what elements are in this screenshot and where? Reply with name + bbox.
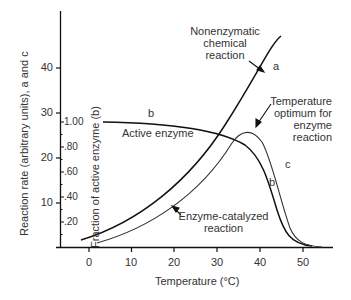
annotation-nonenzymatic-line: Nonenzymatic	[190, 25, 260, 37]
curve-b-label-bottom: b	[269, 176, 275, 188]
annotation-nonenzymatic-line: reaction	[190, 49, 260, 61]
y-axis-secondary-label: Fraction of active enzyme (b)	[89, 106, 101, 248]
y-tick-label: 20	[33, 151, 53, 163]
curve-c-label: c	[285, 158, 291, 170]
y-tick-label: 30	[33, 106, 53, 118]
curve-a-label: a	[273, 60, 279, 72]
annotation-temperature-optimum: Temperature optimum for enzyme reaction	[262, 95, 332, 143]
x-tick-label: 20	[164, 256, 184, 268]
annotation-nonenzymatic-line: chemical	[190, 37, 260, 49]
y-secondary-tick-label: 1.00	[64, 116, 83, 127]
y-axis-label: Reaction rate (arbitrary units), a and c	[18, 51, 30, 236]
annotation-optimum-line: optimum for	[262, 107, 332, 119]
y-secondary-tick-label: .80	[64, 141, 78, 152]
chart-plot	[0, 0, 351, 300]
x-tick-label: 40	[250, 256, 270, 268]
y-secondary-tick-label: .20	[64, 216, 78, 227]
annotation-nonenzymatic: Nonenzymatic chemical reaction	[190, 25, 260, 61]
x-tick-label: 10	[121, 256, 141, 268]
annotation-optimum-line: Temperature	[262, 95, 332, 107]
y-tick-label: 40	[33, 61, 53, 73]
y-secondary-tick-label: .60	[64, 166, 78, 177]
annotation-enzyme-catalyzed: Enzyme-catalyzed reaction	[176, 210, 271, 234]
annotation-optimum-line: reaction	[262, 131, 332, 143]
x-tick-label: 50	[293, 256, 313, 268]
annotation-catalyzed-line: reaction	[176, 222, 271, 234]
annotation-catalyzed-line: Enzyme-catalyzed	[176, 210, 271, 222]
x-axis-label: Temperature (°C)	[155, 275, 239, 287]
x-tick-label: 30	[207, 256, 227, 268]
y-tick-label: 10	[33, 196, 53, 208]
annotation-optimum-line: enzyme	[262, 119, 332, 131]
y-secondary-tick-label: .40	[64, 191, 78, 202]
curve-b-label-top: b	[148, 107, 154, 119]
x-tick-label: 0	[79, 256, 99, 268]
annotation-active-enzyme: Active enzyme	[122, 127, 194, 139]
